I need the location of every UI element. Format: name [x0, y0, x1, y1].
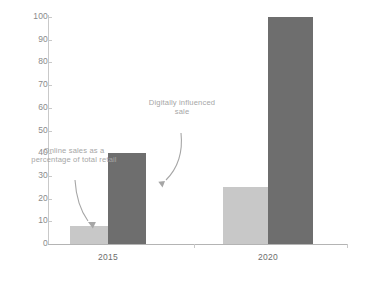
- annotation-arrows: [0, 0, 369, 281]
- bar-2015-digitally-influenced: [108, 153, 146, 244]
- arrow-digitally-influenced-line: [166, 133, 181, 180]
- y-tick-mark: [48, 221, 52, 222]
- y-tick-mark: [48, 17, 52, 18]
- plot-area: 100 90 80 70 60 50 40 30: [0, 0, 369, 281]
- y-tick-mark: [48, 199, 52, 200]
- y-tick-label: 50: [20, 126, 48, 135]
- y-tick-label: 100: [20, 12, 48, 21]
- bar-chart: 100 90 80 70 60 50 40 30: [0, 0, 369, 281]
- annotation-online-sales-text: Online sales as a percentage of total re…: [30, 146, 118, 165]
- bar-2015-online-sales: [70, 226, 108, 244]
- bar-2020-online-sales: [223, 187, 268, 244]
- y-tick-mark: [48, 40, 52, 41]
- y-tick-label: 80: [20, 57, 48, 66]
- y-tick-label: 20: [20, 194, 48, 203]
- y-tick-mark: [48, 131, 52, 132]
- x-axis-label-2015: 2015: [78, 252, 138, 262]
- y-tick-label: 70: [20, 80, 48, 89]
- y-tick-mark: [48, 108, 52, 109]
- x-tick-mark: [347, 244, 348, 248]
- y-tick-mark: [48, 62, 52, 63]
- y-tick-label: 90: [20, 35, 48, 44]
- y-tick-label: 60: [20, 103, 48, 112]
- x-axis-line: [48, 244, 348, 245]
- arrow-digitally-influenced-head: [158, 179, 167, 188]
- y-tick-label: 10: [20, 216, 48, 225]
- y-tick-mark: [48, 176, 52, 177]
- y-tick-label: 30: [20, 171, 48, 180]
- arrow-online-sales-line: [75, 180, 88, 221]
- annotation-digitally-influenced-text: Digitally influenced sale: [146, 98, 218, 117]
- y-tick-mark: [48, 85, 52, 86]
- x-axis-label-2020: 2020: [238, 252, 298, 262]
- bar-2020-digitally-influenced: [268, 17, 313, 244]
- y-tick-label: 0: [20, 239, 48, 248]
- x-tick-mark: [194, 244, 195, 248]
